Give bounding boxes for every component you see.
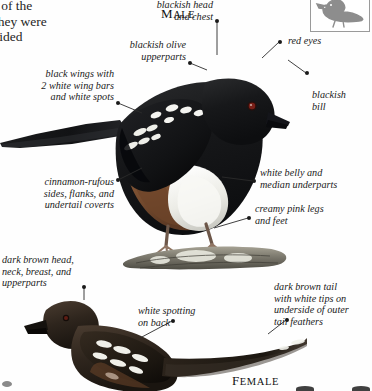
- page-edge-mark-left: [2, 381, 12, 387]
- caption-female-initial: F: [232, 373, 240, 388]
- leader-dot-cinnamon-rufous: [116, 178, 120, 182]
- label-black-wings: black wings with 2 white wing bars and w…: [14, 68, 114, 103]
- field-guide-page: t of the they were sided MALE FEMALE: [0, 0, 372, 391]
- leader-dot-white-belly: [252, 179, 256, 183]
- page-edge-mark-right: [352, 386, 370, 391]
- label-white-spotting-on-back: white spotting on back: [138, 305, 228, 328]
- leader-dot-blackish-head: [215, 19, 219, 23]
- label-cinnamon-rufous-sides: cinnamon-rufous sides, flanks, and under…: [8, 176, 114, 211]
- label-dark-brown-tail-white-tips: dark brown tail with white tips on under…: [274, 281, 372, 327]
- label-blackish-olive-upperparts: blackish olive upperparts: [93, 39, 186, 62]
- bird-silhouette-icon: [313, 0, 365, 29]
- leader-dot-blackish-bill: [305, 71, 309, 75]
- label-white-belly-median-underparts: white belly and median underparts: [260, 167, 372, 190]
- caption-female: FEMALE: [232, 371, 279, 389]
- label-creamy-pink-legs-and-feet: creamy pink legs and feet: [255, 203, 365, 226]
- running-body-text: t of the they were sided: [0, 0, 114, 45]
- caption-female-rest: EMALE: [240, 376, 279, 387]
- page-edge-mark-center: [296, 386, 314, 391]
- bird-silhouette-thumbnail[interactable]: [310, 0, 370, 32]
- leader-dot-black-wings: [116, 101, 120, 105]
- label-dark-brown-head-neck-breast: dark brown head, neck, breast, and upper…: [2, 254, 114, 289]
- leader-dot-red-eyes: [278, 40, 282, 44]
- label-blackish-bill: blackish bill: [312, 89, 370, 112]
- label-red-eyes: red eyes: [288, 35, 358, 47]
- label-blackish-head-and-chest: blackish head and chest: [115, 0, 213, 22]
- leader-dot-creamy-pink-legs: [247, 216, 251, 220]
- leader-dot-blackish-olive: [188, 61, 192, 65]
